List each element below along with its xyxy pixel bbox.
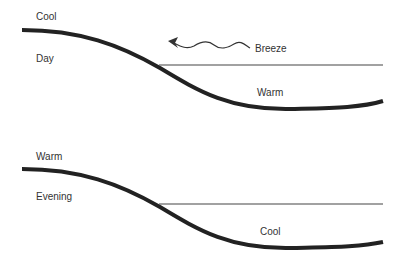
evening-top-label: Warm [36,151,62,162]
day-top-label: Cool [36,11,57,22]
evening-terrain-curve [22,169,383,248]
evening-water-label: Cool [260,226,281,237]
breeze-arrowhead-icon [168,37,178,48]
day-side-label: Day [36,53,54,64]
breeze-label: Breeze [255,43,287,54]
evening-side-label: Evening [36,191,72,202]
breeze-arrow [172,42,250,48]
day-water-label: Warm [257,87,283,98]
diagram-canvas [0,0,403,268]
